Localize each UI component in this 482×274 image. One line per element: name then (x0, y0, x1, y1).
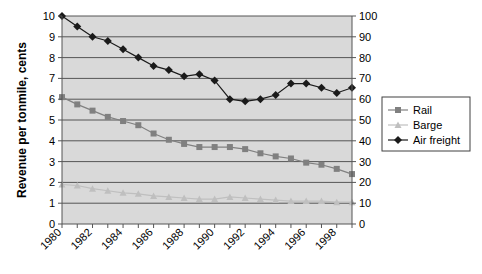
y-axis-tick-label: 7 (49, 72, 55, 84)
marker-square-18 (334, 166, 340, 172)
marker-square-10 (212, 144, 218, 150)
secondary-y-axis-tick-label: 100 (359, 10, 377, 22)
marker-square-15 (288, 155, 294, 161)
marker-square-2 (90, 108, 96, 114)
marker-square-legend-0 (395, 107, 401, 113)
marker-square-11 (227, 144, 233, 150)
legend-label: Rail (413, 104, 432, 116)
y-axis-tick-label: 9 (49, 31, 55, 43)
marker-square-6 (151, 131, 157, 137)
y-axis-tick-label: 4 (49, 135, 55, 147)
marker-square-8 (181, 141, 187, 147)
marker-square-4 (120, 118, 126, 124)
revenue-per-tonmile-line-chart: 012345678910 0102030405060708090100 1980… (0, 0, 482, 274)
y-axis-tick-label: 2 (49, 176, 55, 188)
chart-legend[interactable]: RailBargeAir freight (382, 97, 470, 151)
y-axis-title-text: Revenue per tonmile, cents (15, 42, 29, 198)
secondary-y-axis-tick-label: 80 (359, 52, 371, 64)
y-axis-tick-label: 6 (49, 93, 55, 105)
chart-container: 012345678910 0102030405060708090100 1980… (0, 0, 482, 274)
secondary-y-axis-tick-label: 30 (359, 156, 371, 168)
secondary-y-axis-tick-label: 20 (359, 176, 371, 188)
legend-label: Barge (413, 119, 442, 131)
marker-square-12 (242, 146, 248, 152)
secondary-y-axis-tick-label: 0 (359, 218, 365, 230)
secondary-y-axis-tick-label: 60 (359, 93, 371, 105)
secondary-y-axis-tick-label: 50 (359, 114, 371, 126)
marker-square-9 (196, 144, 202, 150)
secondary-y-axis-tick-label: 90 (359, 31, 371, 43)
marker-square-1 (74, 101, 80, 107)
y-axis-tick-label: 8 (49, 52, 55, 64)
marker-square-5 (135, 122, 141, 128)
marker-square-14 (273, 153, 279, 159)
marker-square-16 (303, 160, 309, 166)
y-axis-title: Revenue per tonmile, cents (15, 42, 29, 198)
secondary-y-axis-tick-label: 40 (359, 135, 371, 147)
y-axis-tick-label: 3 (49, 156, 55, 168)
y-axis-tick-label: 1 (49, 197, 55, 209)
marker-square-3 (105, 114, 111, 120)
secondary-y-axis-tick-label: 10 (359, 197, 371, 209)
y-axis-tick-label: 5 (49, 114, 55, 126)
legend-label: Air freight (413, 134, 460, 146)
secondary-y-axis-tick-label: 70 (359, 72, 371, 84)
y-axis-tick-label: 10 (43, 10, 55, 22)
marker-square-7 (166, 137, 172, 143)
marker-square-13 (257, 150, 263, 156)
marker-square-17 (318, 162, 324, 168)
